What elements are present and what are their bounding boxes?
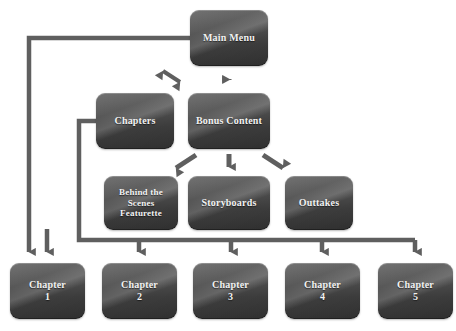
node-storyboards-label: Storyboards	[192, 197, 266, 209]
node-bonus-content[interactable]: Bonus Content	[188, 93, 270, 149]
node-chapter-5-label: Chapter 5	[382, 279, 449, 303]
node-chapter-3-label: Chapter 3	[197, 279, 264, 303]
node-bonus-content-label: Bonus Content	[192, 115, 266, 127]
edge-main-menu-chapters	[163, 71, 180, 82]
node-chapters-label: Chapters	[100, 115, 170, 127]
node-chapter-3[interactable]: Chapter 3	[193, 263, 268, 319]
edge-bonus-content-outtakes	[263, 155, 283, 168]
node-main-menu-label: Main Menu	[194, 32, 264, 44]
node-chapter-1-label: Chapter 1	[14, 279, 81, 303]
node-outtakes[interactable]: Outtakes	[285, 176, 353, 230]
node-behind-the-scenes-featurette[interactable]: Behind the Scenes Featurette	[104, 176, 178, 230]
node-chapter-2-label: Chapter 2	[106, 279, 173, 303]
node-main-menu[interactable]: Main Menu	[190, 10, 268, 66]
node-chapter-4-label: Chapter 4	[289, 279, 356, 303]
node-storyboards[interactable]: Storyboards	[188, 176, 270, 230]
node-chapters[interactable]: Chapters	[96, 93, 174, 149]
node-chapter-1[interactable]: Chapter 1	[10, 263, 85, 319]
node-chapter-4[interactable]: Chapter 4	[285, 263, 360, 319]
node-outtakes-label: Outtakes	[289, 197, 349, 209]
node-behind-the-scenes-featurette-label: Behind the Scenes Featurette	[108, 187, 174, 219]
node-chapter-2[interactable]: Chapter 2	[102, 263, 177, 319]
node-chapter-5[interactable]: Chapter 5	[378, 263, 453, 319]
edge-bonus-content-behind-the-scenes	[176, 155, 196, 168]
diagram-canvas: Main Menu Chapters Bonus Content Behind …	[0, 0, 456, 331]
